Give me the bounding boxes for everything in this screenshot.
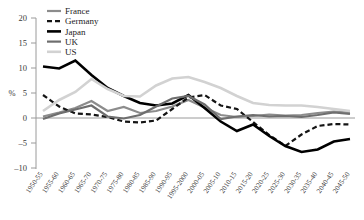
- y-axis-tick-label: 10: [19, 63, 28, 73]
- y-axis-tick-label: 15: [19, 38, 28, 48]
- x-axis: 1950-551955-601960-651965-701970-751975-…: [24, 170, 352, 200]
- y-axis-tick-label: 5: [23, 88, 27, 98]
- y-axis-tick-label: 0: [23, 113, 27, 123]
- y-axis-label: %: [8, 88, 15, 98]
- chart-figure: 20151050–5–10 1950-551955-601960-651965-…: [0, 0, 364, 220]
- legend-label-uk: UK: [65, 37, 78, 47]
- legend-label-us: US: [65, 47, 77, 57]
- series-container: [43, 61, 350, 153]
- line-chart-canvas: 20151050–5–10 1950-551955-601960-651965-…: [0, 0, 364, 220]
- legend-label-france: France: [65, 6, 90, 16]
- legend-label-germany: Germany: [65, 16, 99, 26]
- y-axis-tick-label: –5: [18, 138, 28, 148]
- chart-legend: FranceGermanyJapanUKUS: [47, 6, 99, 57]
- legend-label-japan: Japan: [65, 27, 86, 37]
- x-axis-tick-label: 2045-50: [331, 170, 352, 195]
- y-axis-tick-label: 20: [19, 13, 28, 23]
- y-axis-tick-label: –10: [13, 163, 27, 173]
